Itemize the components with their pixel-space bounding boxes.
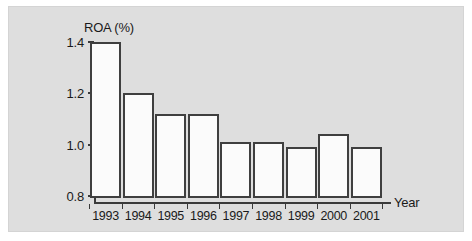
bar [220,142,251,198]
bar [286,147,317,198]
bar [188,114,219,198]
bar [90,42,121,198]
bar [155,114,186,198]
x-tick-label: 1996 [186,209,221,223]
x-axis-line [94,202,391,204]
y-tick-label: 1.0 [67,137,84,152]
y-tick-label: 1.4 [67,35,84,50]
y-tick-label: 1.2 [67,86,84,101]
x-tick-label: 1993 [88,209,123,223]
bar [351,147,382,198]
y-tick-label: 0.8 [67,189,84,204]
x-tick-label: 1994 [121,209,156,223]
x-tick-label: 1998 [251,209,286,223]
x-tick-label: 2000 [316,209,351,223]
x-axis-title: Year [394,195,419,210]
chart-figure: ROA (%) Year 1.41.21.00.8 19931994199519… [0,0,472,241]
chart-panel: ROA (%) Year 1.41.21.00.8 19931994199519… [8,6,464,232]
bar [123,93,154,198]
x-tick-label: 1999 [284,209,319,223]
bar [253,142,284,198]
x-tick-label: 1995 [153,209,188,223]
bar [318,134,349,198]
x-tick-label: 1997 [218,209,253,223]
x-tick-label: 2001 [349,209,384,223]
chart-title: ROA (%) [84,20,134,35]
